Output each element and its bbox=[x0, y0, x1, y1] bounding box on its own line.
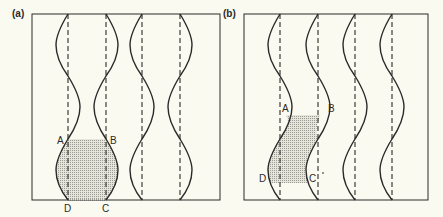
point-b-label-b: B bbox=[328, 103, 335, 114]
point-d-label-b: D bbox=[259, 173, 266, 184]
point-c-label-a: C bbox=[102, 203, 109, 214]
panel-a-label: (a) bbox=[12, 8, 24, 19]
point-a-label-a: A bbox=[57, 135, 64, 146]
point-c-label-b: C bbox=[309, 173, 316, 184]
point-d-label-a: D bbox=[64, 203, 71, 214]
shaded-region-abcd-a bbox=[56, 139, 118, 200]
panel-b-label: (b) bbox=[223, 8, 236, 19]
point-b-label-a: B bbox=[110, 135, 117, 146]
panel-a: (a) A B C D bbox=[12, 8, 220, 214]
panel-b: (b) A B C D bbox=[223, 8, 428, 200]
figure: (a) A B C D (b) bbox=[0, 0, 443, 217]
point-a-label-b: A bbox=[282, 103, 289, 114]
